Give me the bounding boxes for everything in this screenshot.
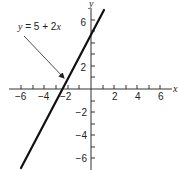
line-chart: x y −6 −4 −2 2 4 6 bbox=[0, 0, 178, 170]
x-tick-label: 6 bbox=[158, 91, 164, 102]
y-tick-label: 6 bbox=[80, 17, 86, 28]
y-tick-label: 2 bbox=[80, 62, 86, 73]
y-tick-label: −2 bbox=[76, 107, 88, 118]
x-axis-label: x bbox=[172, 83, 178, 94]
x-tick-labels: −6 −4 −2 2 4 6 bbox=[15, 91, 164, 102]
equation-label: y = 5 + 2x bbox=[17, 21, 61, 32]
equation-middle: = 5 + 2 bbox=[22, 21, 56, 32]
y-tick-label: −6 bbox=[76, 153, 88, 164]
y-axis-label: y bbox=[88, 0, 94, 9]
y-tick-label: −4 bbox=[76, 130, 88, 141]
x-tick-label: 2 bbox=[112, 91, 118, 102]
x-tick-label: 4 bbox=[135, 91, 141, 102]
y-tick-labels: 6 2 −2 −4 −6 bbox=[76, 17, 88, 164]
annotation-arrow bbox=[24, 36, 64, 78]
x-tick-label: −6 bbox=[15, 91, 27, 102]
equation-x: x bbox=[55, 21, 61, 32]
x-tick-label: −4 bbox=[38, 91, 50, 102]
